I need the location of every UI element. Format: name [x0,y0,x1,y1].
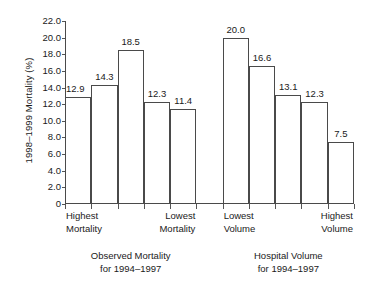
group-caption: Observed Mortalityfor 1994–1997 [71,250,191,275]
category-label-line: Highest [307,210,353,223]
x-axis-tick-mark [275,204,276,209]
bar [275,95,301,204]
bar [223,38,249,204]
x-axis-tick-mark [118,204,119,209]
category-label-line: Mortality [149,223,195,236]
y-axis-title: 1998–1999 Mortality (%) [23,16,34,206]
x-category-highest-mortality: HighestMortality [66,210,102,235]
x-category-lowest-volume: LowestVolume [224,210,256,235]
group-caption-line: for 1994–1997 [71,263,191,276]
bar-value-label: 12.3 [144,89,170,99]
y-axis-tick-label: 18.0 [34,49,61,58]
x-axis-tick-mark [354,204,355,209]
y-axis-tick-label: 4.0 [34,166,61,175]
bar-value-label: 16.6 [249,53,275,63]
bar-value-label: 20.0 [223,25,249,35]
bar-value-label: 12.3 [301,89,327,99]
group-caption-line: Hospital Volume [228,250,348,263]
category-label-line: Volume [224,223,256,236]
bar-value-label: 7.5 [328,129,354,139]
x-axis-tick-mark [170,204,171,209]
group-caption-line: Observed Mortality [71,250,191,263]
category-label-line: Lowest [149,210,195,223]
group-caption: Hospital Volumefor 1994–1997 [228,250,348,275]
bar [65,97,91,204]
bar [328,142,354,204]
category-label-line: Volume [307,223,353,236]
x-category-highest-volume: HighestVolume [307,210,353,235]
bar-chart-figure: 1998–1999 Mortality (%) 22.020.018.016.0… [0,0,371,290]
bar-value-label: 11.4 [170,96,196,106]
x-axis-tick-mark [328,204,329,209]
y-axis-tick-label: 10.0 [34,116,61,125]
x-axis-tick-mark [65,204,66,209]
y-axis-tick-label: 16.0 [34,66,61,75]
bar-value-label: 12.9 [66,84,92,94]
category-label-line: Highest [66,210,102,223]
bar [91,85,117,204]
plot-area: 12.914.318.512.311.420.016.613.112.37.5 [65,21,354,204]
category-label-line: Lowest [224,210,256,223]
x-axis-tick-mark [223,204,224,209]
x-axis-tick-mark [91,204,92,209]
category-label-line: Mortality [66,223,102,236]
y-axis-tick-label: 22.0 [34,16,61,25]
bar [301,102,327,204]
y-axis-tick-label: 14.0 [34,83,61,92]
y-axis-tick-label: 12.0 [34,99,61,108]
y-axis-tick-label: 20.0 [34,33,61,42]
bar-value-label: 14.3 [91,72,117,82]
group-caption-line: for 1994–1997 [228,263,348,276]
y-axis-tick-label: 6.0 [34,149,61,158]
bar [144,102,170,204]
x-category-lowest-mortality: LowestMortality [149,210,195,235]
bar [170,109,196,204]
y-axis-tick-label: 8.0 [34,132,61,141]
bar [249,66,275,204]
x-axis-tick-mark [301,204,302,209]
y-axis-tick-label: 2.0 [34,182,61,191]
x-axis-tick-mark [196,204,197,209]
y-axis-tick-labels: 22.020.018.016.014.012.010.08.06.04.02.0… [33,0,61,290]
bar [118,50,144,204]
x-axis-tick-mark [249,204,250,209]
bar-value-label: 13.1 [275,82,301,92]
x-axis-tick-mark [144,204,145,209]
bar-value-label: 18.5 [118,37,144,47]
